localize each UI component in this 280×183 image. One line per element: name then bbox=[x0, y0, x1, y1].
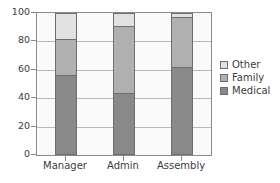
y-tick-label: 0 bbox=[24, 149, 30, 159]
x-tick-mark bbox=[181, 156, 182, 161]
legend-label: Other bbox=[232, 60, 260, 70]
legend-item-medical[interactable]: Medical bbox=[220, 86, 270, 96]
bar-segment-admin-medical[interactable] bbox=[113, 93, 135, 155]
x-axis: ManagerAdminAssembly bbox=[36, 161, 212, 179]
bar-segment-admin-other[interactable] bbox=[113, 13, 135, 26]
legend-label: Medical bbox=[232, 86, 270, 96]
y-tick-mark bbox=[31, 126, 36, 127]
bar-segment-assembly-medical[interactable] bbox=[171, 67, 193, 155]
bar-group-assembly[interactable] bbox=[171, 13, 193, 155]
bar-group-manager[interactable] bbox=[55, 13, 77, 155]
legend-swatch-icon bbox=[220, 74, 228, 82]
y-tick-mark bbox=[31, 40, 36, 41]
legend-item-family[interactable]: Family bbox=[220, 73, 270, 83]
bar-segment-admin-family[interactable] bbox=[113, 26, 135, 93]
y-tick-label: 40 bbox=[18, 92, 30, 102]
chart-legend: OtherFamilyMedical bbox=[220, 60, 270, 96]
x-tick-mark bbox=[123, 156, 124, 161]
y-tick-label: 20 bbox=[18, 121, 30, 131]
y-tick-label: 100 bbox=[12, 7, 30, 17]
bar-segment-assembly-family[interactable] bbox=[171, 17, 193, 67]
y-tick-mark bbox=[31, 12, 36, 13]
x-tick-mark bbox=[65, 156, 66, 161]
y-tick-mark bbox=[31, 69, 36, 70]
y-axis: 020406080100 bbox=[0, 12, 30, 156]
y-tick-mark bbox=[31, 154, 36, 155]
plot-area bbox=[36, 12, 212, 156]
bar-stack bbox=[113, 13, 135, 155]
legend-swatch-icon bbox=[220, 87, 228, 95]
x-tick-label: Assembly bbox=[157, 161, 205, 171]
bar-segment-manager-family[interactable] bbox=[55, 39, 77, 76]
y-tick-mark bbox=[31, 97, 36, 98]
legend-item-other[interactable]: Other bbox=[220, 60, 270, 70]
stacked-bar-chart: 020406080100 ManagerAdminAssembly OtherF… bbox=[0, 0, 280, 183]
bar-segment-manager-medical[interactable] bbox=[55, 75, 77, 155]
y-tick-label: 80 bbox=[18, 36, 30, 46]
bar-stack bbox=[171, 13, 193, 155]
bar-group-admin[interactable] bbox=[113, 13, 135, 155]
legend-swatch-icon bbox=[220, 61, 228, 69]
bar-stack bbox=[55, 13, 77, 155]
legend-label: Family bbox=[232, 73, 264, 83]
bar-segment-manager-other[interactable] bbox=[55, 13, 77, 39]
y-tick-label: 60 bbox=[18, 64, 30, 74]
x-tick-label: Admin bbox=[107, 161, 139, 171]
x-tick-label: Manager bbox=[43, 161, 87, 171]
